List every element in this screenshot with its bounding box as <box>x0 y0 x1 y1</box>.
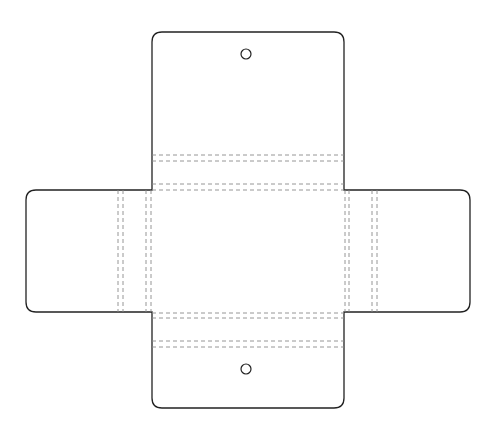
top-hole-icon <box>241 49 251 59</box>
box-template-diagram <box>0 0 497 429</box>
bottom-hole-icon <box>241 364 251 374</box>
cut-outline <box>26 32 470 408</box>
